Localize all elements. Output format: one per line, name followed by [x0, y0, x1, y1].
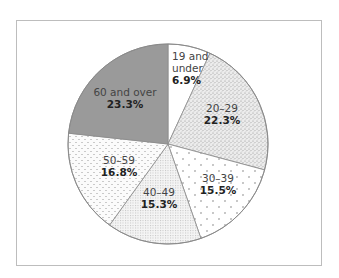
pie-slices — [68, 44, 268, 244]
slice-value-label: 15.3% — [141, 198, 178, 210]
slice-value-label: 22.3% — [204, 114, 241, 126]
pie-chart: 19 andunder6.9%20–2922.3%30–3915.5%40–49… — [0, 0, 339, 278]
slice-category-label: 30–39 — [202, 172, 234, 184]
slice-value-label: 6.9% — [172, 74, 202, 86]
slice-category-label: 50–59 — [103, 154, 135, 166]
slice-value-label: 16.8% — [101, 166, 138, 178]
slice-category-label: 60 and over — [93, 86, 157, 98]
slice-value-label: 23.3% — [107, 98, 144, 110]
slice-category-label: under — [172, 62, 203, 74]
slice-category-label: 40–49 — [143, 186, 175, 198]
slice-category-label: 20–29 — [206, 102, 238, 114]
slice-value-label: 15.5% — [200, 184, 237, 196]
slice-category-label: 19 and — [172, 50, 208, 62]
